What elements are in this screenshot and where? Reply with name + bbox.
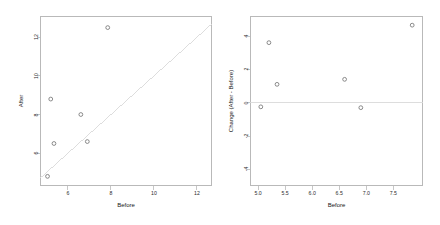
- data-point: [52, 142, 56, 146]
- data-point: [410, 23, 414, 27]
- data-point: [79, 113, 83, 117]
- y-tick-label: 2: [244, 68, 249, 71]
- y-tick-label: -2: [244, 134, 249, 139]
- data-point: [106, 26, 110, 30]
- x-tick-label: 5.5: [282, 191, 289, 196]
- data-point: [275, 82, 279, 86]
- x-tick-label: 7.0: [363, 191, 370, 196]
- x-tick-label: 7.5: [390, 191, 397, 196]
- x-tick-label: 5.0: [255, 191, 262, 196]
- x-tick-label: 6: [66, 191, 69, 196]
- data-point: [85, 140, 89, 144]
- x-axis-title-left: Before: [117, 202, 135, 208]
- plot-graphics-right: [220, 0, 440, 225]
- identity-reference-line: [40, 24, 212, 179]
- y-tick-label: 8: [34, 113, 39, 116]
- y-axis-title-right: Change (After - Before): [228, 70, 234, 132]
- y-tick-label: 12: [34, 34, 39, 40]
- y-tick-label: 4: [244, 35, 249, 38]
- y-tick-label: 10: [34, 73, 39, 79]
- x-tick-label: 8: [109, 191, 112, 196]
- x-tick-label: 6.0: [309, 191, 316, 196]
- y-tick-label: 6: [34, 152, 39, 155]
- scatter-panel-before-change: 5.05.56.06.57.07.5-4-2024 Before Change …: [220, 0, 440, 225]
- data-point: [46, 174, 50, 178]
- x-tick-label: 10: [151, 191, 157, 196]
- y-tick-label: 0: [244, 101, 249, 104]
- y-axis-title-left: After: [18, 95, 24, 108]
- figure-canvas: 681012681012 Before After 5.05.56.06.57.…: [0, 0, 440, 225]
- y-tick-label: -4: [244, 167, 249, 172]
- scatter-panel-before-after: 681012681012 Before After: [0, 0, 220, 225]
- data-point: [343, 77, 347, 81]
- data-point: [359, 106, 363, 110]
- data-point: [267, 41, 271, 45]
- data-point: [259, 105, 263, 109]
- x-axis-title-right: Before: [328, 202, 346, 208]
- data-point: [49, 97, 53, 101]
- x-tick-label: 6.5: [336, 191, 343, 196]
- x-tick-label: 12: [194, 191, 200, 196]
